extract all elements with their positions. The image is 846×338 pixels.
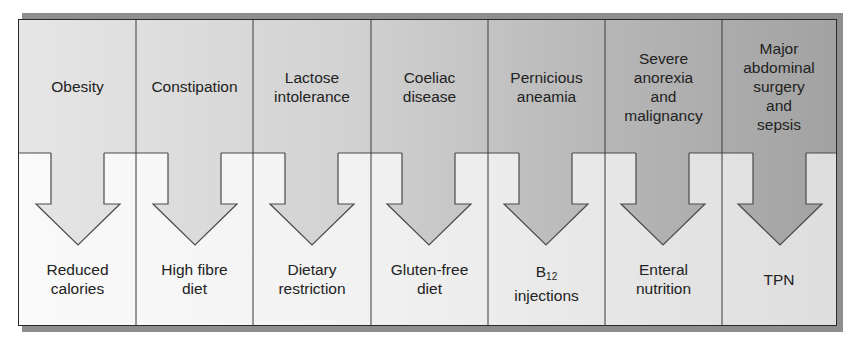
treatment-label: Gluten-free diet <box>391 260 469 298</box>
condition-label: Major abdominal surgery and sepsis <box>743 39 815 134</box>
condition-label: Lactose intolerance <box>274 68 350 106</box>
condition-label: Coeliac disease <box>403 68 456 106</box>
treatment-label: Dietary restriction <box>278 260 345 298</box>
treatment-label: Reduced calories <box>46 260 108 298</box>
column-obesity: Obesity Reduced calories <box>19 20 136 325</box>
condition-label: Pernicious aneamia <box>510 68 582 106</box>
column-constipation: Constipation High fibre diet <box>136 20 253 325</box>
condition-label: Constipation <box>151 77 237 96</box>
treatment-label: TPN <box>764 270 795 289</box>
condition-label: Obesity <box>51 77 104 96</box>
column-major-surgery: Major abdominal surgery and sepsis TPN <box>722 20 836 325</box>
column-coeliac-disease: Coeliac disease Gluten-free diet <box>371 20 488 325</box>
treatment-label: High fibre diet <box>161 260 227 298</box>
column-severe-anorexia: Severe anorexia and malignancy Enteral n… <box>605 20 722 325</box>
column-lactose-intolerance: Lactose intolerance Dietary restriction <box>253 20 371 325</box>
condition-label: Severe anorexia and malignancy <box>624 49 702 125</box>
treatment-label: B12 <box>536 262 557 286</box>
diagram-frame: Obesity Reduced calories Constipation Hi… <box>18 19 837 326</box>
column-pernicious-anaemia: Pernicious aneamia B12 injections <box>488 20 605 325</box>
treatment-label: Enteral nutrition <box>636 260 691 298</box>
